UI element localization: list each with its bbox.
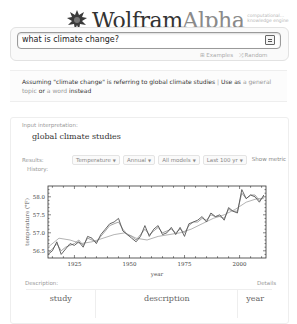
description-label: Description: [25,280,58,286]
studies-table-header: study description year [26,289,272,318]
svg-text:1925: 1925 [67,261,81,267]
column-header-study: study [26,290,96,318]
column-header-year: year [238,290,272,318]
svg-text:57.0: 57.0 [33,230,46,236]
svg-text:56.5: 56.5 [33,248,46,254]
x-axis-label: year [150,271,164,278]
details-button[interactable]: Details [257,280,276,286]
svg-text:57.5: 57.5 [33,212,46,218]
y-axis-label: temperature (°F) [24,198,31,246]
svg-text:2000: 2000 [233,261,247,267]
plot-frame [48,186,266,258]
svg-text:58.0: 58.0 [33,194,46,200]
svg-text:1975: 1975 [178,261,192,267]
column-header-description: description [96,290,238,318]
svg-text:1950: 1950 [122,261,136,267]
